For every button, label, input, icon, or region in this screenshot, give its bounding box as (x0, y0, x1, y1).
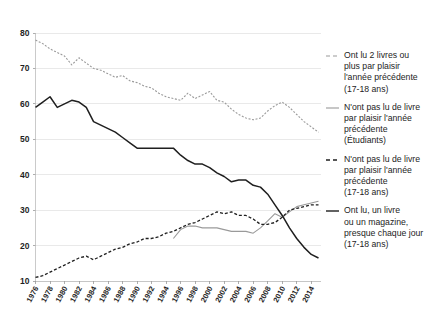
legend-label: N'ont pas lu de livre par plaisir l'anné… (344, 102, 420, 147)
y-tick-label: 80 (20, 28, 30, 38)
x-tick-label: 1992 (141, 285, 157, 304)
data-series-group (36, 40, 319, 277)
x-axis-line (36, 33, 321, 281)
x-tick-label: 1998 (184, 285, 200, 304)
legend-entry[interactable]: N'ont pas lu de livre par plaisir l'anné… (326, 154, 440, 199)
legend-entry[interactable]: Ont lu 2 livres ou plus par plaisir l'an… (326, 50, 440, 95)
x-tick-label: 1978 (39, 285, 55, 304)
legend-swatch-lu-presque-chaque-jour-icon (326, 205, 340, 217)
legend-label: Ont lu, un livre ou un magazine, presque… (344, 205, 423, 250)
y-tick-label: 40 (20, 170, 30, 180)
x-tick-label: 1980 (54, 285, 70, 304)
x-tick-label: 2008 (257, 285, 273, 304)
y-tick-label: 20 (20, 241, 30, 251)
x-tick-label: 1984 (83, 284, 99, 304)
x-tick-label: 2000 (199, 285, 215, 304)
x-tick-label: 2006 (242, 285, 258, 304)
series-line-pas-lu-etudiants (173, 201, 318, 238)
legend-label: Ont lu 2 livres ou plus par plaisir l'an… (344, 50, 418, 95)
chart-legend: Ont lu 2 livres ou plus par plaisir l'an… (326, 50, 440, 257)
y-tick-label: 30 (20, 205, 30, 215)
x-tick-label: 1996 (170, 285, 186, 304)
legend-entry[interactable]: N'ont pas lu de livre par plaisir l'anné… (326, 102, 440, 147)
y-tick-label: 10 (20, 276, 30, 286)
x-tick-label: 1994 (155, 284, 171, 304)
legend-label: N'ont pas lu de livre par plaisir l'anné… (344, 154, 420, 199)
legend-entry[interactable]: Ont lu, un livre ou un magazine, presque… (326, 205, 440, 250)
x-tick-label: 1982 (68, 285, 84, 304)
x-tick-label: 1986 (97, 285, 113, 304)
y-gridlines (33, 33, 321, 281)
x-axis-ticks (36, 281, 312, 284)
x-tick-label: 2002 (213, 285, 229, 304)
legend-swatch-pas-lu-17-18-icon (326, 154, 340, 166)
series-line-pas-lu-17-18 (36, 205, 319, 278)
x-tick-label: 2010 (271, 285, 287, 304)
line-chart: 1020304050607080 19761978198019821984198… (0, 0, 440, 318)
legend-swatch-lu-2-livres-ou-plus-icon (326, 50, 340, 62)
x-tick-label: 2014 (300, 284, 316, 304)
x-tick-label: 1988 (112, 285, 128, 304)
y-tick-label: 50 (20, 134, 30, 144)
x-tick-label: 2012 (286, 285, 302, 304)
x-axis-labels: 1976197819801982198419861988199019921994… (25, 284, 317, 304)
y-tick-label: 60 (20, 99, 30, 109)
x-tick-label: 1990 (126, 285, 142, 304)
series-line-lu-2-livres-ou-plus (36, 40, 319, 132)
legend-swatch-pas-lu-etudiants-icon (326, 102, 340, 114)
x-tick-label: 2004 (228, 284, 244, 304)
y-axis-labels: 1020304050607080 (20, 28, 30, 286)
y-tick-label: 70 (20, 63, 30, 73)
x-tick-label: 1976 (25, 285, 41, 304)
